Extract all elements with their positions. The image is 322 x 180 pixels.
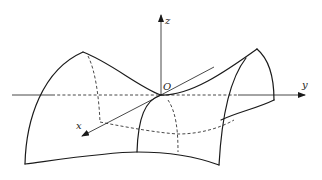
saddle-surface-figure: z y x O (0, 0, 322, 180)
x-axis-label: x (76, 120, 82, 131)
hidden-curves (52, 56, 238, 152)
origin-label: O (163, 81, 171, 92)
z-axis-label: z (164, 15, 171, 26)
surface-outline (25, 49, 274, 165)
x-axis (82, 95, 161, 136)
y-axis-label: y (301, 79, 308, 90)
diagram-canvas: z y x O (0, 0, 322, 180)
axes (12, 15, 305, 136)
